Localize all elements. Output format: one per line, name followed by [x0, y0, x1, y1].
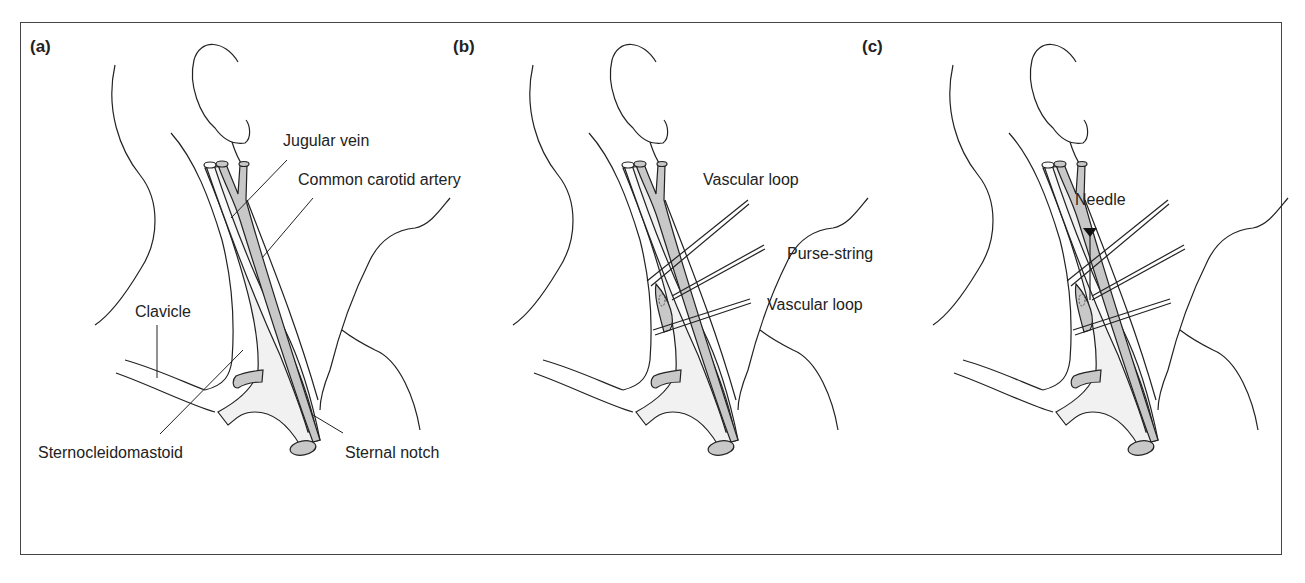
- callout-sternal-notch: Sternal notch: [345, 444, 439, 462]
- callout-needle: Needle: [1075, 191, 1126, 209]
- anatomy-drawings: [0, 0, 1305, 583]
- callout-vascular-loop-upper: Vascular loop: [703, 171, 799, 189]
- callout-purse-string: Purse-string: [787, 245, 873, 263]
- panel-label-b: (b): [453, 37, 475, 57]
- callout-sternocleidomastoid: Sternocleidomastoid: [38, 444, 183, 462]
- panel-c-drawing: [933, 44, 1288, 457]
- panel-label-a: (a): [30, 37, 51, 57]
- callout-jugular-vein: Jugular vein: [283, 132, 369, 150]
- callout-clavicle: Clavicle: [135, 303, 191, 321]
- panel-a-drawing: [95, 44, 450, 457]
- panel-label-c: (c): [862, 37, 883, 57]
- neck-cannulation-figure: (a) (b) (c) Jugular vein Common carotid …: [0, 0, 1305, 583]
- callout-vascular-loop-lower: Vascular loop: [767, 296, 863, 314]
- callout-common-carotid-artery: Common carotid artery: [298, 171, 461, 189]
